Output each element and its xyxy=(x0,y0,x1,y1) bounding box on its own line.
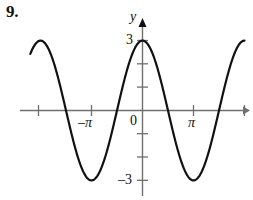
y-axis xyxy=(137,18,148,196)
y-tick-label-3: 3 xyxy=(126,33,133,47)
graph-canvas xyxy=(0,0,253,200)
figure-page: 9. y 3 –3 0 –π π xyxy=(0,0,253,200)
x-tick-label-pi: π xyxy=(188,116,195,130)
y-axis-label: y xyxy=(130,10,136,24)
origin-label: 0 xyxy=(130,114,137,128)
y-tick-label-neg-3: –3 xyxy=(118,173,132,187)
y-axis-arrow-icon xyxy=(139,18,147,27)
x-tick-label-neg-pi: –π xyxy=(78,116,92,130)
